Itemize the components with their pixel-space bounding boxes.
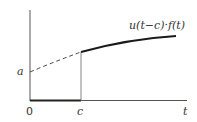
function-label: u(t−c)·f(t) [129, 20, 185, 31]
dashed-curve [30, 52, 81, 72]
c-label: c [77, 106, 83, 117]
origin-label: 0 [26, 106, 33, 117]
a-label: a [17, 66, 24, 77]
t-axis-label: t [183, 106, 187, 117]
product-curve [81, 36, 176, 52]
